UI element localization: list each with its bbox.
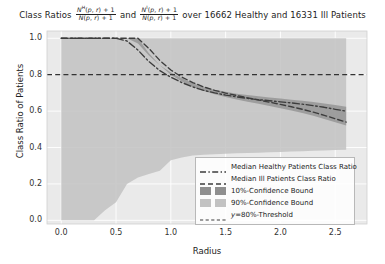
legend-90-confidence: 90%-Confidence Bound [200,197,350,209]
legend-median-healthy-key [200,162,226,172]
legend-median-ill-key [200,174,226,184]
legend-threshold-key [200,210,226,220]
legend-threshold: y=80%-Threshold [200,209,350,221]
y-tick-label: 0.2 [16,179,42,188]
x-tick-label: 0.5 [101,228,131,237]
legend-median-healthy-label: Median Healthy Patients Class Ratio [231,163,357,171]
x-tick-label: 0.0 [46,228,76,237]
y-axis-label: Class Ratio of Patients [15,51,25,171]
legend-10-confidence-label: 10%-Confidence Bound [231,187,313,195]
legend-10-confidence-key [200,186,226,196]
y-tick-label: 0.0 [16,215,42,224]
x-tick-label: 1.5 [211,228,241,237]
legend-90-confidence-swatch [200,199,211,207]
x-tick-label: 2.5 [320,228,350,237]
legend-90-confidence-label: 90%-Confidence Bound [231,199,313,207]
legend-10-confidence-swatch [200,187,211,195]
x-axis-label: Radius [47,246,367,256]
legend-10-confidence: 10%-Confidence Bound [200,185,350,197]
x-tick-label: 1.0 [156,228,186,237]
chart-figure: Class Ratios NH(p, r) + 1 N(p, r) + 1 an… [0,0,385,264]
chart-legend: Median Healthy Patients Class RatioMedia… [195,157,355,225]
x-tick-label: 2.0 [265,228,295,237]
legend-median-healthy: Median Healthy Patients Class Ratio [200,161,350,173]
legend-90-confidence-swatch [215,199,226,207]
y-tick-label: 1.0 [16,33,42,42]
legend-threshold-label: y=80%-Threshold [231,211,293,219]
legend-10-confidence-swatch [215,187,226,195]
legend-90-confidence-key [200,198,226,208]
legend-median-ill: Median Ill Patients Class Ratio [200,173,350,185]
legend-median-ill-label: Median Ill Patients Class Ratio [231,175,336,183]
